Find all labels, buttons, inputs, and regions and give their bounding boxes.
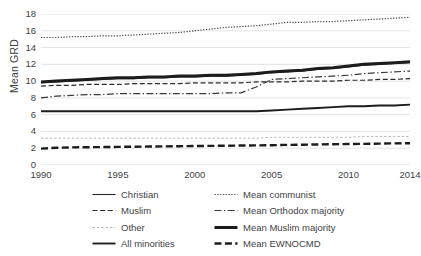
plot-area <box>41 14 410 165</box>
legend-swatch-icon <box>92 239 116 248</box>
legend-label: All minorities <box>121 238 175 249</box>
series-line-mean-communist <box>41 17 410 37</box>
chart-legend: ChristianMean communistMuslimMean Orthod… <box>92 186 412 252</box>
series-line-other <box>41 136 410 138</box>
legend-swatch-icon <box>214 206 238 215</box>
y-axis-tick-label: 4 <box>12 126 36 136</box>
legend-item-other[interactable]: Other <box>92 222 214 233</box>
legend-item-all-minorities[interactable]: All minorities <box>92 238 214 249</box>
y-axis-tick-label: 18 <box>12 9 36 19</box>
y-axis-tick-label: 6 <box>12 110 36 120</box>
y-axis-ticks: 024681012141618 <box>8 14 36 165</box>
legend-label: Mean Orthodox majority <box>243 205 344 216</box>
legend-label: Christian <box>121 189 159 200</box>
y-axis-tick-label: 2 <box>12 143 36 153</box>
legend-item-mean-ewnocmd[interactable]: Mean EWNOCMD <box>214 238 412 249</box>
y-axis-tick-label: 8 <box>12 93 36 103</box>
x-axis-tick-label: 2014 <box>399 169 420 180</box>
x-axis-ticks: 199019952000200520102014 <box>41 167 410 181</box>
series-line-mean-muslim-majority <box>41 62 410 82</box>
legend-swatch-icon <box>214 239 238 248</box>
legend-item-christian[interactable]: Christian <box>92 189 214 200</box>
y-axis-tick-label: 14 <box>12 43 36 53</box>
x-axis-tick-label: 1990 <box>30 169 51 180</box>
legend-label: Other <box>121 222 145 233</box>
x-axis-tick-label: 2005 <box>261 169 282 180</box>
legend-item-mean-communist[interactable]: Mean communist <box>214 189 412 200</box>
series-line-all-minorities <box>41 105 410 112</box>
x-axis-tick-label: 2010 <box>338 169 359 180</box>
legend-swatch-icon <box>92 206 116 215</box>
legend-label: Mean Muslim majority <box>243 222 335 233</box>
legend-swatch-icon <box>92 190 116 199</box>
legend-swatch-icon <box>92 223 116 232</box>
x-axis-tick-label: 1995 <box>107 169 128 180</box>
series-lines <box>41 14 410 165</box>
legend-swatch-icon <box>214 190 238 199</box>
legend-item-mean-orthodox-majority[interactable]: Mean Orthodox majority <box>214 205 412 216</box>
legend-label: Mean communist <box>243 189 315 200</box>
legend-item-muslim[interactable]: Muslim <box>92 205 214 216</box>
legend-label: Mean EWNOCMD <box>243 238 321 249</box>
y-axis-tick-label: 10 <box>12 76 36 86</box>
x-axis-tick-label: 2000 <box>184 169 205 180</box>
legend-label: Muslim <box>121 205 151 216</box>
y-axis-tick-label: 16 <box>12 26 36 36</box>
legend-item-mean-muslim-majority[interactable]: Mean Muslim majority <box>214 222 412 233</box>
y-axis-tick-label: 12 <box>12 59 36 69</box>
legend-swatch-icon <box>214 223 238 232</box>
series-line-mean-ewnocmd <box>41 143 410 148</box>
